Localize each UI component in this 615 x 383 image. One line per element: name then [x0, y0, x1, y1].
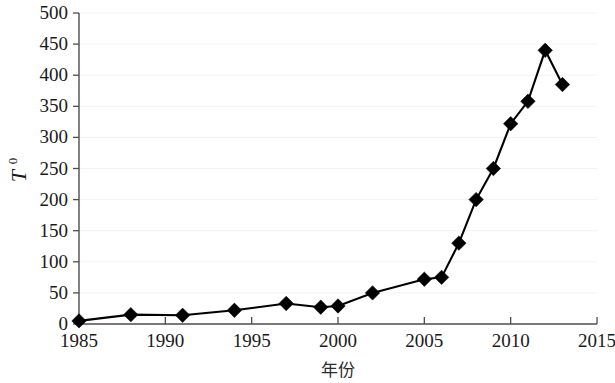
- y-tick-label: 350: [40, 95, 69, 116]
- x-tick-label: 2015: [578, 330, 615, 351]
- x-tick-label: 1990: [146, 330, 184, 351]
- y-tick-label: 100: [40, 251, 69, 272]
- data-point-marker: [434, 270, 448, 284]
- x-tick-label: 1995: [233, 330, 271, 351]
- data-point-marker: [486, 161, 500, 175]
- data-series: [72, 43, 570, 328]
- data-point-marker: [279, 296, 293, 310]
- x-axis-tick-labels: 1985199019952000200520102015: [60, 330, 615, 351]
- y-tick-label: 150: [40, 220, 69, 241]
- y-tick-label: 50: [49, 282, 68, 303]
- y-axis-title-subscript: 0: [5, 158, 20, 165]
- data-point-marker: [175, 308, 189, 322]
- data-point-marker: [331, 299, 345, 313]
- data-point-marker: [365, 286, 379, 300]
- series-line: [79, 50, 562, 321]
- x-tick-label: 2005: [405, 330, 443, 351]
- y-tick-label: 300: [40, 126, 69, 147]
- data-point-marker: [555, 77, 569, 91]
- x-axis-title: 年份: [321, 360, 355, 380]
- y-tick-label: 400: [40, 64, 69, 85]
- y-axis-tick-labels: 050100150200250300350400450500: [40, 2, 69, 334]
- chart-figure: 050100150200250300350400450500 198519901…: [0, 0, 615, 383]
- data-point-markers: [72, 43, 570, 328]
- x-axis-ticks: [79, 317, 597, 324]
- y-tick-label: 200: [40, 189, 69, 210]
- line-chart: 050100150200250300350400450500 198519901…: [0, 0, 615, 383]
- data-point-marker: [417, 272, 431, 286]
- data-point-marker: [227, 303, 241, 317]
- data-point-marker: [124, 307, 138, 321]
- data-point-marker: [538, 43, 552, 57]
- y-tick-label: 250: [40, 158, 69, 179]
- y-axis-title: T 0: [5, 158, 31, 182]
- data-point-marker: [72, 314, 86, 328]
- gridlines: [79, 13, 597, 293]
- data-point-marker: [452, 236, 466, 250]
- y-tick-label: 450: [40, 33, 69, 54]
- x-tick-label: 2010: [492, 330, 530, 351]
- data-point-marker: [469, 192, 483, 206]
- y-axis-title-text: T: [6, 168, 31, 182]
- x-tick-label: 1985: [60, 330, 98, 351]
- data-point-marker: [314, 300, 328, 314]
- y-axis-ticks: [73, 13, 79, 324]
- x-tick-label: 2000: [319, 330, 357, 351]
- y-tick-label: 500: [40, 2, 69, 23]
